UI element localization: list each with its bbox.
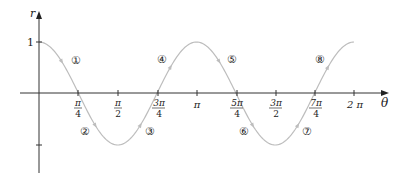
direction-arrows [59, 58, 331, 128]
segment-label-4: ④ [157, 53, 167, 66]
svg-text:7π: 7π [310, 98, 323, 108]
svg-text:π: π [74, 98, 82, 108]
svg-text:π: π [193, 99, 201, 110]
svg-text:4: 4 [75, 109, 81, 119]
r-axis-label: r [30, 7, 36, 20]
svg-text:2: 2 [115, 109, 121, 119]
svg-text:2 π: 2 π [346, 99, 364, 110]
svg-text:4: 4 [313, 109, 319, 119]
segment-labels: ① ② ③ ④ ⑤ ⑥ ⑦ ⑧ [71, 53, 325, 138]
cosine-chart: r θ 1 π 4 π 2 3π 4 π 5π 4 3π 2 7π 4 2 π … [0, 0, 410, 175]
y-tick-label-1: 1 [27, 36, 34, 49]
segment-label-8: ⑧ [315, 53, 325, 66]
svg-text:3π: 3π [153, 98, 166, 108]
r-axis-arrow-icon [36, 11, 42, 19]
segment-label-2: ② [80, 125, 90, 138]
segment-label-3: ③ [145, 125, 155, 138]
curve-direction-arrow-icon [325, 64, 331, 70]
segment-label-6: ⑥ [239, 125, 249, 138]
theta-axis-label: θ [381, 96, 389, 110]
svg-text:3π: 3π [270, 98, 283, 108]
curve-direction-arrow-icon [168, 64, 174, 70]
svg-text:4: 4 [156, 109, 162, 119]
svg-text:π: π [114, 98, 122, 108]
segment-label-7: ⑦ [302, 125, 312, 138]
svg-text:5π: 5π [231, 98, 244, 108]
svg-text:4: 4 [234, 109, 240, 119]
segment-label-1: ① [71, 54, 81, 67]
x-tick-labels: π 4 π 2 3π 4 π 5π 4 3π 2 7π 4 2 π [74, 98, 363, 119]
svg-text:2: 2 [273, 109, 279, 119]
segment-label-5: ⑤ [227, 53, 237, 66]
